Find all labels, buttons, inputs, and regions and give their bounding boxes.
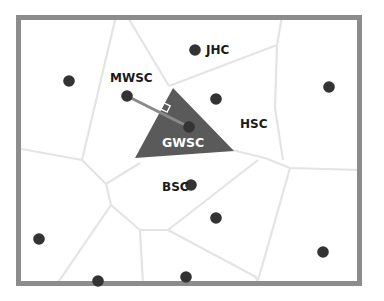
label-bsc: BSC [162,180,189,194]
voronoi-diagram: JHC MWSC HSC GWSC BSC [0,0,384,301]
site-marker [210,212,222,224]
site-marker [92,275,104,287]
label-hsc: HSC [240,117,268,131]
site-marker [33,233,45,245]
label-gwsc: GWSC [162,135,204,150]
site-marker [323,81,335,93]
site-marker [210,93,222,105]
site-marker [317,246,329,258]
site-marker-jhc [189,44,201,56]
label-jhc: JHC [205,43,230,57]
site-marker-gwsc [183,121,195,133]
site-marker [180,271,192,283]
site-marker-mwsc [121,90,133,102]
label-mwsc: MWSC [110,71,153,85]
site-marker [63,75,75,87]
